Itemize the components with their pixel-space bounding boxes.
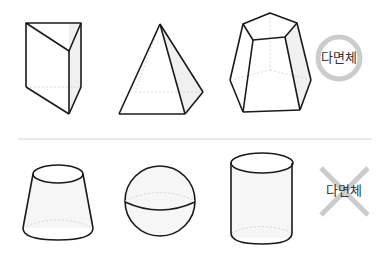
polyhedron-label-yes: 다면체 [309,50,369,66]
triangular-prism [26,23,81,114]
sphere [125,166,195,236]
square-pyramid [119,24,203,114]
polyhedron-label-no: 다면체 [314,183,374,199]
pentagonal-frustum [230,13,311,112]
cone-frustum [23,165,93,240]
cylinder [231,153,293,244]
shapes-diagram [0,0,387,260]
